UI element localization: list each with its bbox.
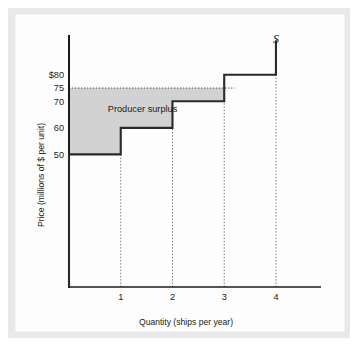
chart-svg: $80 75 70 60 50 1 2 3 4 Quantity (ships … <box>0 0 358 346</box>
producer-surplus-chart: $80 75 70 60 50 1 2 3 4 Quantity (ships … <box>0 0 358 346</box>
x-tick-label-4: 4 <box>273 292 278 302</box>
supply-curve-label: S <box>273 32 279 46</box>
x-tick-label-2: 2 <box>170 292 175 302</box>
y-tick-label-70: 70 <box>54 97 64 107</box>
producer-surplus-area <box>69 88 224 154</box>
producer-surplus-label: Producer surplus <box>108 104 178 114</box>
x-tick-label-3: 3 <box>222 292 227 302</box>
y-tick-label-60: 60 <box>54 123 64 133</box>
x-tick-label-1: 1 <box>118 292 123 302</box>
y-axis-title: Price (millions of $ per unit) <box>36 123 46 227</box>
y-tick-label-80: $80 <box>49 70 64 80</box>
chart-screenshot: $80 75 70 60 50 1 2 3 4 Quantity (ships … <box>0 0 358 346</box>
x-axis-title: Quantity (ships per year) <box>139 317 233 327</box>
supply-curve-path <box>69 40 276 287</box>
y-tick-label-50: 50 <box>54 150 64 160</box>
y-tick-label-75: 75 <box>54 83 64 93</box>
